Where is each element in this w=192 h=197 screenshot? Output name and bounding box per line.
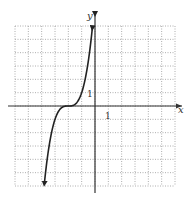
y-tick-label-1: 1: [87, 89, 93, 99]
x-tick-label-1: 1: [105, 111, 111, 121]
function-graph: x y 1 1: [0, 0, 192, 197]
y-axis-label: y: [86, 10, 93, 21]
x-axis-label: x: [178, 104, 184, 115]
axes: [8, 14, 182, 193]
